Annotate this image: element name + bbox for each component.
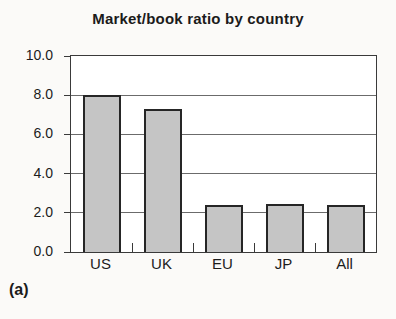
y-tick-label: 4.0 — [3, 164, 53, 182]
y-tick-label: 2.0 — [3, 203, 53, 221]
y-tick-mark — [64, 173, 71, 174]
x-tick-label: JP — [253, 255, 314, 272]
chart-title: Market/book ratio by country — [0, 10, 396, 27]
y-tick-label: 6.0 — [3, 124, 53, 142]
x-tick-label: UK — [131, 255, 192, 272]
bar-all — [327, 205, 365, 252]
y-tick-mark — [64, 252, 71, 253]
figure-panel: Market/book ratio by country 0.02.04.06.… — [0, 0, 396, 319]
y-tick-mark — [64, 134, 71, 135]
x-tick-label: All — [314, 255, 375, 272]
y-tick-label: 0.0 — [3, 242, 53, 260]
x-axis-labels: USUKEUJPAll — [70, 255, 375, 275]
bar-eu — [205, 205, 243, 252]
y-axis-labels: 0.02.04.06.08.010.0 — [0, 55, 62, 251]
category-boundary-tick — [132, 243, 133, 252]
category-boundary-tick — [254, 243, 255, 252]
y-tick-mark — [64, 212, 71, 213]
y-tick-mark — [64, 56, 71, 57]
plot-area — [70, 55, 377, 253]
y-tick-mark — [64, 95, 71, 96]
y-tick-label: 8.0 — [3, 85, 53, 103]
bar-jp — [266, 204, 304, 252]
x-tick-label: US — [70, 255, 131, 272]
x-tick-label: EU — [192, 255, 253, 272]
panel-label: (a) — [9, 281, 29, 299]
bar-uk — [144, 109, 182, 252]
bar-us — [83, 95, 121, 252]
category-boundary-tick — [193, 243, 194, 252]
category-boundary-tick — [315, 243, 316, 252]
y-tick-label: 10.0 — [3, 46, 53, 64]
